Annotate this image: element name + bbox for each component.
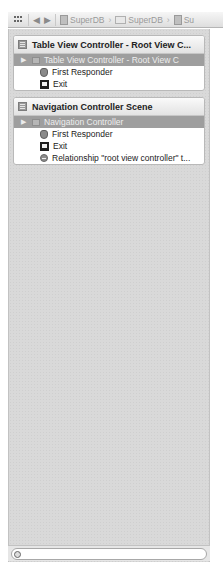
scene-navigation-controller: Navigation Controller Scene ▶ Navigation… bbox=[13, 97, 205, 165]
scene-icon bbox=[18, 40, 27, 49]
breadcrumb-file[interactable]: Su bbox=[174, 15, 194, 25]
filter-icon bbox=[14, 551, 21, 558]
outline-item-first-responder[interactable]: First Responder bbox=[14, 128, 204, 140]
exit-icon bbox=[40, 80, 49, 89]
scene-table-view-controller: Table View Controller - Root View C... ▶… bbox=[13, 35, 205, 91]
outline-item-label: Exit bbox=[53, 79, 67, 89]
breadcrumb-project[interactable]: SuperDB bbox=[60, 15, 105, 25]
disclosure-triangle-icon[interactable]: ▶ bbox=[18, 56, 28, 64]
chevron-right-icon: › bbox=[167, 15, 170, 25]
scene-icon bbox=[18, 102, 27, 111]
filter-field[interactable] bbox=[11, 548, 207, 560]
outline-item-exit[interactable]: Exit bbox=[14, 140, 204, 152]
exit-icon bbox=[40, 142, 49, 151]
filter-input[interactable] bbox=[24, 550, 206, 559]
first-responder-icon bbox=[40, 68, 48, 77]
outline-item-label: Table View Controller - Root View C bbox=[44, 55, 179, 65]
breadcrumb-label: SuperDB bbox=[70, 15, 105, 25]
outline-item-label: Navigation Controller bbox=[44, 117, 123, 127]
folder-icon bbox=[115, 16, 126, 24]
disclosure-triangle-icon[interactable]: ▶ bbox=[18, 118, 28, 126]
breadcrumb-label: SuperDB bbox=[128, 15, 163, 25]
divider bbox=[28, 14, 29, 26]
outline-item-label: Relationship "root view controller" t... bbox=[52, 153, 190, 163]
outline-item-exit[interactable]: Exit bbox=[14, 78, 204, 90]
scene-header[interactable]: Table View Controller - Root View C... bbox=[14, 36, 204, 54]
scene-title: Navigation Controller Scene bbox=[32, 102, 153, 112]
outline-item-table-view-controller[interactable]: ▶ Table View Controller - Root View C bbox=[14, 54, 204, 66]
back-arrow-icon[interactable]: ◀ bbox=[33, 15, 40, 25]
outline-item-navigation-controller[interactable]: ▶ Navigation Controller bbox=[14, 116, 204, 128]
relationship-segue-icon bbox=[40, 154, 48, 162]
outline-item-relationship-segue[interactable]: Relationship "root view controller" t... bbox=[14, 152, 204, 164]
first-responder-icon bbox=[40, 130, 48, 139]
project-icon bbox=[60, 15, 68, 25]
navigation-controller-icon bbox=[32, 119, 40, 126]
outline-item-label: First Responder bbox=[52, 129, 112, 139]
outline-filter-bar bbox=[8, 545, 210, 561]
outline-item-label: Exit bbox=[53, 141, 67, 151]
scene-header[interactable]: Navigation Controller Scene bbox=[14, 98, 204, 116]
view-controller-icon bbox=[32, 57, 40, 64]
breadcrumb-label: Su bbox=[184, 15, 194, 25]
jump-bar: ◀ ▶ SuperDB › SuperDB › Su bbox=[8, 12, 223, 28]
scene-title: Table View Controller - Root View C... bbox=[32, 40, 191, 50]
forward-arrow-icon[interactable]: ▶ bbox=[44, 15, 51, 25]
storyboard-file-icon bbox=[174, 15, 182, 25]
chevron-right-icon: › bbox=[109, 15, 112, 25]
divider bbox=[55, 14, 56, 26]
breadcrumb-folder[interactable]: SuperDB bbox=[115, 15, 163, 25]
outline-item-label: First Responder bbox=[52, 67, 112, 77]
outline-item-first-responder[interactable]: First Responder bbox=[14, 66, 204, 78]
related-items-grid-icon[interactable] bbox=[14, 16, 24, 24]
document-outline-panel[interactable]: Table View Controller - Root View C... ▶… bbox=[8, 29, 210, 562]
